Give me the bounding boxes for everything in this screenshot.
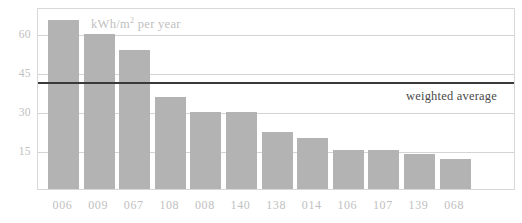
bar-139[interactable] (404, 154, 435, 189)
bar-140[interactable] (226, 112, 257, 189)
bar-008[interactable] (190, 112, 221, 189)
bar-014[interactable] (297, 138, 328, 189)
x-tick-label-108: 108 (159, 198, 179, 213)
x-tick-label-006: 006 (53, 198, 73, 213)
bar-006[interactable] (48, 20, 79, 189)
bar-068[interactable] (440, 159, 471, 189)
x-tick-label-140: 140 (231, 198, 251, 213)
y-tick-label-60: 60 (19, 28, 31, 40)
bar-106[interactable] (333, 150, 364, 189)
x-tick-label-107: 107 (373, 198, 393, 213)
y-tick-label-45: 45 (19, 67, 31, 79)
weighted-average-label: weighted average (406, 89, 497, 104)
weighted-average-line (38, 82, 514, 84)
y-tick-label-15: 15 (19, 145, 31, 157)
bar-067[interactable] (119, 50, 150, 189)
units-caption: kWh/m2 per year (91, 16, 181, 32)
units-superscript: 2 (130, 16, 134, 25)
bar-107[interactable] (368, 150, 399, 189)
x-tick-label-106: 106 (337, 198, 357, 213)
x-tick-label-138: 138 (266, 198, 286, 213)
y-axis: 15304560 (0, 0, 34, 223)
bar-138[interactable] (262, 132, 293, 189)
x-tick-label-139: 139 (409, 198, 429, 213)
x-tick-label-068: 068 (444, 198, 464, 213)
y-tick-label-30: 30 (19, 106, 31, 118)
bar-009[interactable] (84, 34, 115, 189)
x-tick-label-067: 067 (124, 198, 144, 213)
bar-108[interactable] (155, 97, 186, 189)
chart-screenshot: 15304560 kWh/m2 per year weighted averag… (0, 0, 522, 223)
x-tick-label-009: 009 (88, 198, 108, 213)
x-axis: 006009067108008140138014106107139068 (0, 198, 522, 220)
x-tick-label-014: 014 (302, 198, 322, 213)
x-tick-label-008: 008 (195, 198, 215, 213)
